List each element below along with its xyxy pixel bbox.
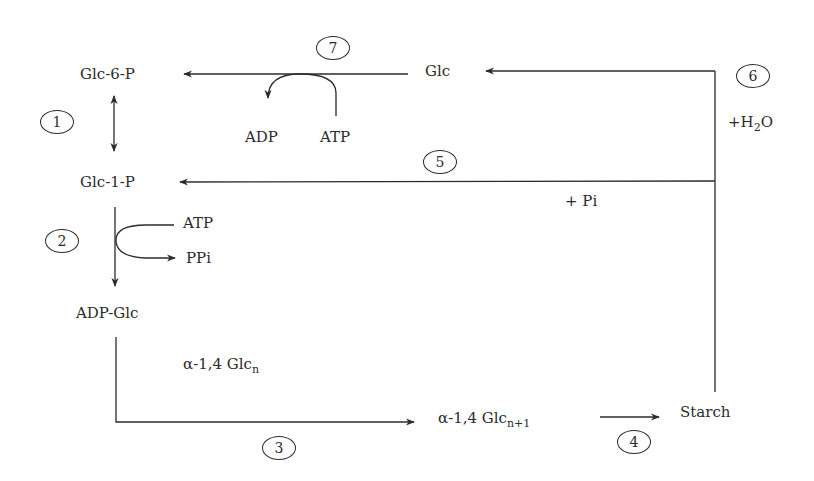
step-5-badge: 5 [423, 150, 457, 174]
cofactor-pi-step5: + Pi [565, 194, 597, 209]
step-6-badge: 6 [736, 64, 770, 88]
node-glucan-n: α-1,4 Glcn [183, 357, 259, 372]
arrow-adpglc-to-glcn1 [116, 337, 414, 422]
step-7-badge: 7 [316, 36, 350, 60]
arrow-starch-to-glc1p [180, 181, 715, 182]
glucan-n-subscript: n [252, 363, 259, 376]
atp-adp-curve-step7 [268, 74, 336, 116]
step-3-badge: 3 [262, 436, 296, 460]
h2o-subscript: 2 [754, 121, 761, 134]
glucan-n1-label: α-1,4 Glc [438, 409, 507, 427]
cofactor-ppi-step2: PPi [186, 251, 211, 266]
h2o-suffix: O [761, 113, 773, 131]
node-glucan-n-plus-1: α-1,4 Glcn+1 [438, 411, 530, 426]
step-4-badge: 4 [617, 430, 651, 454]
node-glc: Glc [425, 64, 450, 79]
step-1-badge: 1 [40, 110, 74, 134]
h2o-prefix: +H [728, 113, 754, 131]
node-glc-6-p: Glc-6-P [80, 67, 135, 82]
cofactor-h2o-step6: +H2O [728, 115, 773, 130]
cofactor-adp-step7: ADP [245, 130, 278, 145]
node-glc-1-p: Glc-1-P [80, 175, 135, 190]
node-adp-glc: ADP-Glc [76, 306, 138, 321]
step-2-badge: 2 [45, 229, 79, 253]
glucan-n1-subscript: n+1 [507, 417, 530, 430]
cofactor-atp-step7: ATP [320, 130, 350, 145]
node-starch: Starch [680, 405, 730, 420]
atp-ppi-curve-step2 [116, 225, 175, 258]
cofactor-atp-step2: ATP [183, 216, 213, 231]
glucan-n-label: α-1,4 Glc [183, 355, 252, 373]
